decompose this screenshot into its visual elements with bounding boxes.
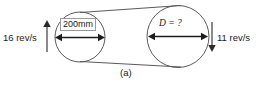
- large-pulley-diameter-label: D = ?: [158, 19, 183, 29]
- belt-top-line: [80, 6, 181, 13]
- right-pulley-speed-label: 11 rev/s: [217, 33, 250, 43]
- small-pulley-diameter-arrow: [55, 34, 105, 41]
- left-pulley-speed-label: 16 rev/s: [3, 33, 37, 43]
- figure-caption: (a): [120, 68, 132, 78]
- large-pulley-diameter-arrow: [148, 33, 208, 40]
- left-rotation-up-arrow-icon: [43, 20, 50, 52]
- small-pulley-diameter-label: 200mm: [60, 18, 96, 31]
- figure-container: 16 rev/s 11 rev/s 200mm D = ? (a): [0, 0, 259, 85]
